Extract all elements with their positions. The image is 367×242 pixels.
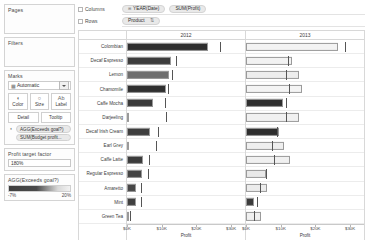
budget-goal-reference-line [254,211,255,221]
expand-icon[interactable]: ⊞ [128,5,131,12]
bar-row [127,40,245,54]
pane-header-year[interactable]: 2013 [246,31,364,40]
profit-bar[interactable] [127,113,129,121]
profit-bar[interactable] [246,85,302,93]
columns-shelf-dropzone[interactable]: ⊞ YEAR(Date) SUM(Profit) [122,4,365,15]
parameter-control-title: Profit target factor [5,149,74,158]
profit-bar[interactable] [246,57,292,65]
profit-bar[interactable] [127,57,171,65]
row-header-label[interactable]: Earl Grey [79,139,126,153]
columns-shelf-label-box: Columns [78,6,122,12]
rows-shelf-dropzone[interactable]: Product ⇅ [122,16,365,27]
bar-row [246,210,364,224]
x-axis-title[interactable]: Profit [127,233,245,238]
profit-bar[interactable] [127,99,153,107]
color-legend-scale: -7% 20% [8,193,71,198]
filters-shelf-title: Filters [5,38,74,47]
row-header-label[interactable]: Colombian [79,40,126,54]
profit-bar[interactable] [127,43,208,51]
profit-bar[interactable] [127,71,169,79]
x-axis[interactable]: $0K$10K$20K$30KProfit [246,224,364,240]
profit-bar[interactable] [246,198,254,206]
profit-bar[interactable] [127,170,142,178]
profit-bar[interactable] [127,212,129,220]
row-header-label[interactable]: Darjeeling [79,111,126,125]
pages-shelf-panel[interactable]: Pages [4,4,75,34]
chart-corner-cell [79,31,126,40]
chart-panes: 2012$0K$10K$20K$30KProfit2013$0K$10K$20K… [127,31,365,240]
row-header-label[interactable]: Green Tea [79,210,126,224]
row-header-label[interactable]: Lemon [79,68,126,82]
sort-icon[interactable]: ⇅ [150,17,154,24]
marks-type-selector[interactable]: ▩ Automatic [8,81,71,90]
row-header-label[interactable]: Mint [79,196,126,210]
bar-row [246,97,364,111]
detail-button-label: Detail [17,115,29,121]
columns-pill-year-date[interactable]: ⊞ YEAR(Date) [122,5,165,13]
profit-bar[interactable] [127,198,136,206]
profit-bar[interactable] [246,156,290,164]
profit-bar[interactable] [246,184,267,192]
filters-shelf-panel[interactable]: Filters [4,37,75,67]
detail-button[interactable]: Detail [8,112,39,123]
profit-bar[interactable] [246,43,338,51]
bar-row [127,82,245,96]
bar-row [127,68,245,82]
row-header-label[interactable]: Caffe Mocha [79,97,126,111]
tooltip-button[interactable]: Tooltip [41,112,72,123]
row-header-label[interactable]: Amaretto [79,182,126,196]
bar-row [246,153,364,167]
row-header-label[interactable]: Decaf Espresso [79,54,126,68]
label-button[interactable]: Ab Label [51,93,71,110]
bar-row [127,167,245,181]
row-header-label[interactable]: Regular Espresso [79,167,126,181]
chart-pane: 2013$0K$10K$20K$30KProfit [246,31,365,240]
profit-bar[interactable] [127,85,166,93]
profit-bar[interactable] [246,71,299,79]
marks-card-title: Marks [5,71,74,80]
budget-goal-reference-line [220,42,221,52]
marks-type-label: Automatic [17,81,59,90]
bar-row [246,111,364,125]
budget-goal-reference-line [141,183,142,193]
marks-pill-color[interactable]: ◖ AGG(Exceeds goal?) [8,125,71,133]
profit-bar[interactable] [246,170,266,178]
color-legend-gradient[interactable] [8,185,71,192]
marks-pill-label[interactable]: SUM(Budget profit... [8,134,71,142]
marks-pill-label-text[interactable]: SUM(Budget profit... [16,134,71,142]
pages-shelf-dropzone[interactable] [5,14,74,24]
color-legend-max: 20% [62,193,71,198]
filters-shelf-dropzone[interactable] [5,47,74,57]
row-header-label[interactable]: Chamomile [79,82,126,96]
columns-shelf[interactable]: Columns ⊞ YEAR(Date) SUM(Profit) [78,4,365,14]
row-header-label[interactable]: Decaf Irish Cream [79,125,126,139]
profit-bar[interactable] [127,184,136,192]
worksheet-area: Columns ⊞ YEAR(Date) SUM(Profit) Rows Pr… [78,0,367,242]
marks-pill-color-label[interactable]: AGG(Exceeds goal?) [16,125,71,133]
profit-bar[interactable] [127,127,150,135]
rows-pill-product[interactable]: Product ⇅ [122,17,160,25]
bar-chart-icon: ▩ [9,82,17,90]
budget-goal-reference-line [288,56,289,66]
rows-shelf[interactable]: Rows Product ⇅ [78,16,365,26]
profit-bar[interactable] [246,99,283,107]
profit-bar[interactable] [246,113,299,121]
x-axis[interactable]: $0K$10K$20K$30KProfit [127,224,245,240]
parameter-value-input[interactable]: 180% [8,159,71,167]
profit-bar[interactable] [246,142,284,150]
profit-bar[interactable] [127,156,143,164]
axis-tick-label: $20K [310,226,320,231]
bar-row [246,167,364,181]
profit-bar[interactable] [127,142,129,150]
pane-header-year[interactable]: 2012 [127,31,245,40]
columns-shelf-label: Columns [85,6,105,12]
color-button[interactable]: ◖ Color [8,93,28,110]
chevron-down-icon[interactable] [59,81,69,90]
budget-goal-reference-line [130,211,131,221]
columns-pill-sum-profit[interactable]: SUM(Profit) [169,5,206,13]
bar-row [127,139,245,153]
x-axis-title[interactable]: Profit [246,233,364,238]
profit-bar[interactable] [246,127,279,135]
row-header-label[interactable]: Caffe Latte [79,153,126,167]
size-button[interactable]: ○ Size [30,93,50,110]
